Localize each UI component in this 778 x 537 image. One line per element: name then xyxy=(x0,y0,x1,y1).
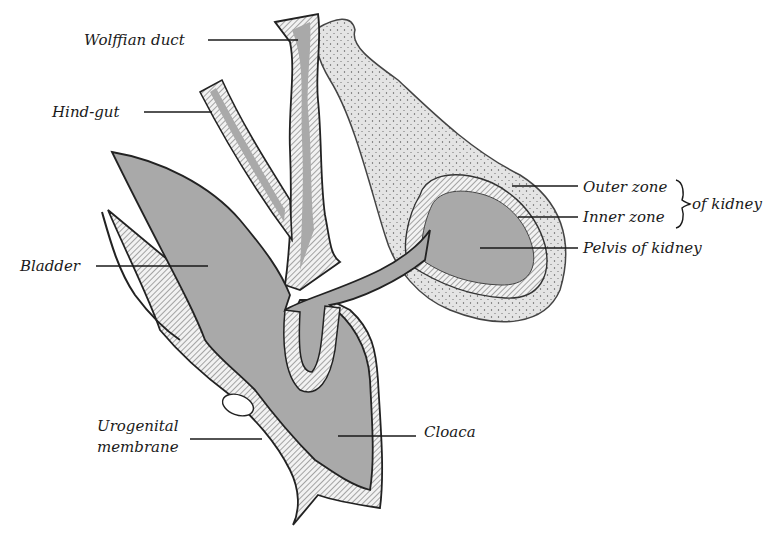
label-of-kidney: of kidney xyxy=(692,195,762,213)
label-cloaca: Cloaca xyxy=(424,423,476,441)
label-bladder: Bladder xyxy=(19,257,81,275)
label-urogenital-2: membrane xyxy=(97,438,179,456)
label-hind-gut: Hind-gut xyxy=(51,103,120,121)
embryology-diagram: Wolffian duct Hind-gut Bladder Outer zon… xyxy=(0,0,778,537)
label-inner-zone: Inner zone xyxy=(582,208,665,226)
label-pelvis-of-kidney: Pelvis of kidney xyxy=(582,239,702,257)
kidney xyxy=(316,19,566,321)
label-outer-zone: Outer zone xyxy=(583,178,667,196)
label-wolffian-duct: Wolffian duct xyxy=(84,31,186,49)
brace-kidney xyxy=(676,180,690,228)
label-urogenital-1: Urogenital xyxy=(97,417,179,435)
